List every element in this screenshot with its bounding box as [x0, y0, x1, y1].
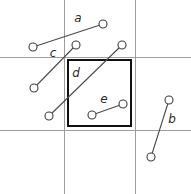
segment-a-endpoint-end — [99, 20, 107, 28]
segment-d: d — [45, 41, 126, 120]
segment-d-endpoint-start — [45, 112, 53, 120]
segment-b: b — [147, 96, 176, 161]
segment-c-endpoint-start — [30, 84, 38, 92]
segment-d-endpoint-end — [118, 41, 126, 49]
segment-label-d: d — [72, 66, 80, 80]
segment-line-e — [92, 104, 123, 115]
background-grid — [0, 0, 191, 194]
segment-e-endpoint-end — [119, 100, 127, 108]
segment-b-endpoint-start — [147, 153, 155, 161]
segment-line-b — [151, 100, 169, 157]
diagram-canvas: acdeb — [0, 0, 191, 194]
segment-a-endpoint-start — [29, 43, 37, 51]
segment-label-b: b — [168, 112, 176, 126]
segment-c-endpoint-end — [72, 41, 80, 49]
segments-group: acdeb — [29, 11, 176, 162]
segment-label-e: e — [100, 92, 107, 106]
segment-a: a — [29, 11, 107, 52]
segment-b-endpoint-end — [165, 96, 173, 104]
segment-e: e — [88, 92, 127, 120]
segment-line-a — [33, 24, 103, 47]
segments-grid-figure: acdeb — [0, 0, 191, 194]
segment-label-c: c — [50, 46, 57, 60]
segment-label-a: a — [74, 11, 81, 25]
segment-line-d — [49, 45, 122, 116]
segment-e-endpoint-start — [88, 111, 96, 119]
